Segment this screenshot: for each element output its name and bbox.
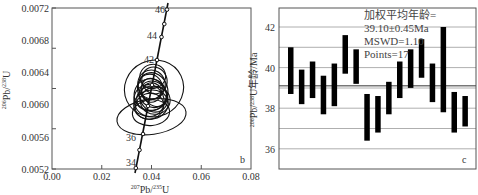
x-axis: 0.00 0.02 0.04 0.06 0.08 (43, 165, 260, 182)
annotation-mswd: MSWD=1.10 (364, 35, 424, 47)
x-tick-label: 0.04 (143, 171, 161, 182)
age-bar (332, 64, 338, 107)
x-tick-label: 0.02 (93, 171, 111, 182)
age-bar (441, 27, 447, 112)
y-tick-label: 0.0068 (22, 35, 50, 46)
age-bar (430, 64, 436, 103)
x-tick-label: 0.06 (193, 171, 211, 182)
y-axis-title: 206Pb/238U (1, 70, 12, 109)
weighted-mean-panel: 42 40 38 36 206Pb/238U年龄/Ma 加权平均年龄= 39.1… (247, 8, 476, 169)
concordia-age-label: 44 (147, 30, 157, 41)
age-bar (310, 62, 316, 99)
age-bar (386, 82, 392, 114)
y-axis-title: 206Pb/238U年龄/Ma (247, 52, 259, 127)
y-tick-label: 0.0064 (22, 67, 50, 78)
age-bar (364, 94, 370, 141)
age-bar (375, 96, 381, 133)
weighted-mean-annotation: 加权平均年龄= 39.10±0.45Ma MSWD=1.10 Points=17 (364, 8, 436, 60)
x-axis-title: 207Pb/235U (131, 184, 170, 195)
concordia-age-label: 46 (155, 4, 165, 15)
age-bar (452, 92, 458, 133)
y-tick-label: 0.0060 (22, 99, 50, 110)
concordia-age-label: 34 (126, 157, 136, 168)
age-bar (397, 62, 403, 99)
y-tick-label: 36 (265, 144, 275, 155)
figure: 0.0072 0.0068 0.0064 0.0060 0.0056 0.005… (0, 0, 478, 195)
age-bar (321, 76, 327, 115)
age-bar (353, 49, 359, 84)
y-tick-label: 0.0056 (22, 132, 50, 143)
y-tick-label: 0.0072 (22, 3, 50, 14)
y-tick-label: 42 (265, 22, 275, 33)
panel-letter-b: b (240, 154, 245, 165)
y-tick-label: 38 (265, 103, 275, 114)
y-axis: 0.0072 0.0068 0.0064 0.0060 0.0056 0.005… (22, 3, 57, 175)
concordia-age-label: 36 (126, 132, 136, 143)
age-bar (408, 49, 414, 88)
age-bar (288, 47, 294, 94)
panel-letter-c: c (462, 154, 467, 165)
y-tick-label: 40 (265, 63, 275, 74)
concordia-panel: 0.0072 0.0068 0.0064 0.0060 0.0056 0.005… (1, 3, 260, 195)
concordia-age-label: 42 (144, 54, 154, 65)
annotation-mean: 39.10±0.45Ma (364, 22, 429, 34)
annotation-title: 加权平均年龄= (364, 8, 436, 21)
x-tick-label: 0.00 (43, 171, 61, 182)
y-axis: 42 40 38 36 (265, 22, 275, 155)
x-tick-label: 0.08 (242, 171, 260, 182)
age-bar (299, 70, 305, 105)
annotation-points: Points=17 (364, 48, 409, 60)
age-bar (462, 96, 468, 126)
age-bar (343, 35, 349, 74)
